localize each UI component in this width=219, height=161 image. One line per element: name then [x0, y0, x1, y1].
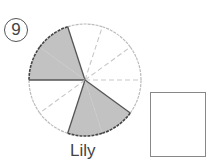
pie-caption: Lily [70, 141, 96, 161]
answer-box[interactable] [150, 92, 206, 157]
pie-slices [29, 24, 141, 136]
